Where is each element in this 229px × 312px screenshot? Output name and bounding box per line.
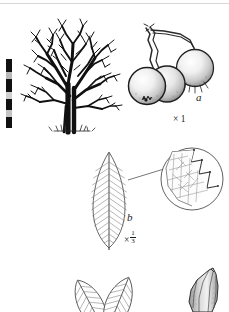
scale-bar-segment (6, 110, 12, 117)
scale-bar-segment (6, 79, 12, 92)
top-rule (0, 3, 229, 4)
magnification-fraction-b: 13 (130, 230, 136, 246)
magnification-label-b: ×13 (124, 230, 136, 246)
scale-bar-segment (6, 117, 12, 128)
fruit-cluster-figure (124, 20, 222, 112)
bud-figure (183, 268, 229, 312)
magnification-label-a: × 1 (173, 115, 185, 125)
height-scale-bar (6, 59, 12, 128)
leaf-margin-detail-figure (158, 146, 226, 212)
scale-bar-segment (6, 72, 12, 79)
scale-bar-segment (6, 59, 12, 72)
magnification-prefix-b: × (124, 235, 129, 245)
figure-label-b: b (127, 212, 133, 223)
scale-bar-segment (6, 92, 12, 99)
leaf-pair-figure (56, 276, 148, 312)
figure-label-a: a (196, 92, 202, 103)
fraction-denominator: 3 (130, 238, 136, 245)
tree-habit-figure (16, 10, 128, 132)
scale-bar-segment (6, 99, 12, 110)
botanical-plate: a × 1 (0, 0, 229, 312)
